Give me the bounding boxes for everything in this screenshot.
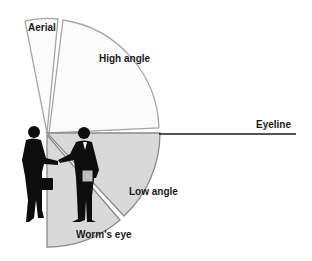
high-angle-label: High angle (99, 53, 150, 64)
low-angle-label: Low angle (129, 186, 178, 197)
high-angle-wedge (49, 20, 159, 133)
eyeline-label: Eyeline (256, 119, 291, 130)
worms-eye-label: Worm's eye (76, 229, 132, 240)
camera-angle-diagram (0, 0, 312, 261)
aerial-label: Aerial (28, 22, 56, 33)
